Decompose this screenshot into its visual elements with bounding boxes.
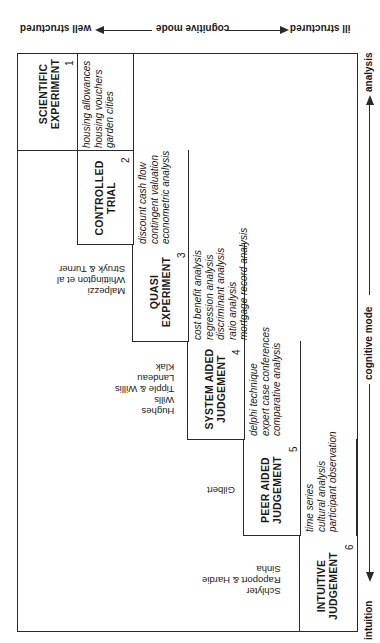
method-item: garden cities xyxy=(104,61,116,148)
top-axis-line-left xyxy=(104,30,152,31)
axis-line-upper xyxy=(369,105,370,295)
step-4-title-line1: SYSTEM AIDED xyxy=(203,346,215,432)
axis-cognitive-mode-label: cognitive mode xyxy=(363,307,374,380)
step-3-methods: cost benefit analysis regression analysi… xyxy=(192,228,250,340)
step-1-divider-vertical xyxy=(77,53,78,151)
axis-analysis-label: analysis xyxy=(363,53,374,92)
step-2-right xyxy=(133,53,134,245)
step-3-bottom xyxy=(132,341,189,342)
method-item: discriminant analysis xyxy=(215,228,227,340)
author-item: Whittington et al xyxy=(57,275,125,286)
method-item: cultural analysis xyxy=(316,431,328,532)
step-6-title-line1: INTUITIVE xyxy=(315,550,327,622)
top-axis: ill structured cognitive mode well struc… xyxy=(18,22,360,38)
step-6-left xyxy=(299,535,300,632)
method-item: comparative analysis xyxy=(271,327,283,436)
author-item: Struyk & Turner xyxy=(57,264,125,275)
step-4-title: SYSTEM AIDED JUDGEMENT xyxy=(203,346,227,432)
step-2-top xyxy=(77,150,134,151)
step-4-methods: delphi technique expert case conferences… xyxy=(248,327,283,436)
top-axis-ill-structured-label: ill structured xyxy=(290,23,351,34)
author-item: Tipple & Willis xyxy=(115,384,174,395)
method-item: cost benefit analysis xyxy=(192,228,204,340)
step-1-title-line2: EXPERIMENT xyxy=(49,56,61,132)
step-3-title-line1: QUASI xyxy=(148,254,160,330)
step-6-authors: Schlyter Rapoport & Hardie Sinha xyxy=(202,564,281,597)
step-5-number: 5 xyxy=(288,446,299,452)
step-5-title: PEER AIDED JUDGEMENT xyxy=(259,450,283,530)
step-5-left xyxy=(243,439,244,536)
method-item: expert case conferences xyxy=(260,327,272,436)
step-5-title-line2: JUDGEMENT xyxy=(271,450,283,530)
method-item: housing vouchers xyxy=(93,61,105,148)
step-4-number: 4 xyxy=(231,349,242,355)
step-2-title-line2: TRIAL xyxy=(105,160,117,236)
step-3-authors: Malpezzi Whittington et al Struyk & Turn… xyxy=(57,264,125,297)
step-6-number: 6 xyxy=(344,544,355,550)
step-6-title-line2: JUDGEMENT xyxy=(327,550,339,622)
step-1-title: SCIENTIFIC EXPERIMENT xyxy=(37,56,61,132)
arrow-right-icon xyxy=(280,26,289,34)
arrow-up-icon xyxy=(366,95,374,105)
step-4-title-line2: JUDGEMENT xyxy=(215,346,227,432)
step-4-left xyxy=(187,341,188,440)
step-1-methods: housing allowances housing vouchers gard… xyxy=(81,61,116,148)
step-1-divider-horizontal xyxy=(17,150,78,151)
step-3-left xyxy=(132,244,133,342)
method-item: delphi technique xyxy=(248,327,260,436)
top-axis-cognitive-mode-label: cognitive mode xyxy=(156,23,229,34)
author-item: Rapoport & Hardie xyxy=(202,575,281,586)
step-5-title-line1: PEER AIDED xyxy=(259,450,271,530)
author-item: Sinha xyxy=(202,564,281,575)
step-2-number: 2 xyxy=(120,157,131,163)
step-5-right xyxy=(300,341,301,536)
step-6-right xyxy=(356,439,357,536)
step-3-right xyxy=(188,150,189,342)
top-axis-line-right xyxy=(226,30,280,31)
method-item: ratio analysis xyxy=(227,228,239,340)
step-3-title-line2: EXPERIMENT xyxy=(160,254,172,330)
step-2-bottom xyxy=(77,244,134,245)
method-item: participant observation xyxy=(327,431,339,532)
axis-line-lower xyxy=(369,384,370,574)
method-item: time series xyxy=(304,431,316,532)
author-item: Schlyter xyxy=(202,586,281,597)
step-4-authors: Hughes Wills Tipple & Willis Landeau Kla… xyxy=(115,362,174,417)
author-item: Malpezzi xyxy=(57,286,125,297)
step-5-methods: time series cultural analysis participan… xyxy=(304,431,339,532)
author-item: Landeau xyxy=(115,373,174,384)
method-item: econometric analysis xyxy=(160,151,172,244)
axis-intuition-label: intuition xyxy=(363,601,374,640)
author-item: Wills xyxy=(115,395,174,406)
arrow-left-icon xyxy=(95,26,104,34)
step-4-bottom xyxy=(187,439,245,440)
method-item: contingent valuation xyxy=(149,151,161,244)
method-item: discount cash flow xyxy=(137,151,149,244)
method-item: regression analysis xyxy=(204,228,216,340)
method-item: mortgage record analysis xyxy=(238,228,250,340)
step-3-title: QUASI EXPERIMENT xyxy=(148,254,172,330)
author-item: Hughes xyxy=(115,406,174,417)
step-5-authors: Gilbert xyxy=(207,485,235,496)
step-2-left xyxy=(77,150,78,245)
step-2-title: CONTROLLED TRIAL xyxy=(93,160,117,236)
step-5-bottom xyxy=(243,535,301,536)
step-3-number: 3 xyxy=(176,252,187,258)
author-item: Gilbert xyxy=(207,485,235,496)
step-6-title: INTUITIVE JUDGEMENT xyxy=(315,550,339,622)
step-1-number: 1 xyxy=(64,60,75,66)
top-axis-well-structured-label: well structured xyxy=(20,23,91,34)
step-1-title-line1: SCIENTIFIC xyxy=(37,56,49,132)
method-item: housing allowances xyxy=(81,61,93,148)
arrow-down-icon xyxy=(366,572,374,582)
step-2-methods: discount cash flow contingent valuation … xyxy=(137,151,172,244)
author-item: Klak xyxy=(115,362,174,373)
step-2-title-line1: CONTROLLED xyxy=(93,160,105,236)
